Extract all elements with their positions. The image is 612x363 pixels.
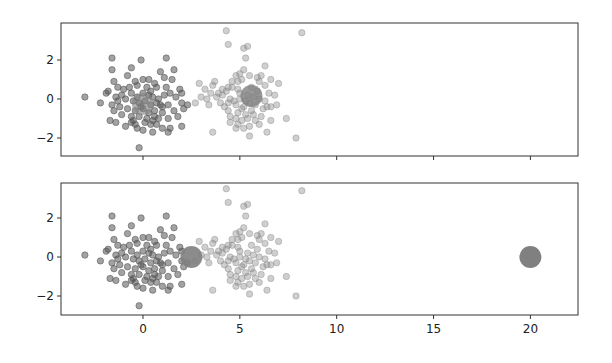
centroid-marker <box>240 85 262 107</box>
data-point <box>229 78 235 84</box>
data-point <box>233 283 239 289</box>
data-point <box>237 228 243 234</box>
data-point <box>109 225 115 231</box>
data-point <box>210 287 216 293</box>
data-point <box>130 117 136 123</box>
data-point <box>117 262 123 268</box>
centroid-marker <box>132 93 154 115</box>
data-point <box>196 238 202 244</box>
y-tick-label: 2 <box>46 53 54 67</box>
data-point <box>157 227 163 233</box>
data-point <box>268 117 274 123</box>
data-point <box>149 287 155 293</box>
data-point <box>293 293 299 299</box>
data-point <box>256 78 262 84</box>
data-point <box>122 281 128 287</box>
data-point <box>149 129 155 135</box>
data-point <box>169 234 175 240</box>
data-point <box>283 273 289 279</box>
data-point <box>169 76 175 82</box>
data-point <box>163 84 169 90</box>
data-point <box>227 277 233 283</box>
data-point <box>171 67 177 73</box>
data-point <box>262 221 268 227</box>
data-point <box>175 271 181 277</box>
data-point <box>221 104 227 110</box>
data-point <box>153 84 159 90</box>
scatter-figure: −202 −20205101520 <box>0 0 612 363</box>
data-point <box>229 236 235 242</box>
data-point <box>163 55 169 61</box>
data-point <box>206 260 212 266</box>
data-point <box>118 269 124 275</box>
axes-frame <box>61 183 578 315</box>
data-point <box>246 72 252 78</box>
data-point <box>138 57 144 63</box>
data-point <box>130 275 136 281</box>
data-point <box>122 123 128 129</box>
data-point <box>173 252 179 258</box>
data-point <box>208 248 214 254</box>
data-point <box>244 273 250 279</box>
data-point <box>268 275 274 281</box>
data-point <box>142 256 148 262</box>
data-point <box>223 28 229 34</box>
x-tick-label: 15 <box>426 322 441 336</box>
data-point <box>227 119 233 125</box>
data-point <box>202 86 208 92</box>
data-point <box>171 225 177 231</box>
data-point <box>161 74 167 80</box>
data-point <box>153 242 159 248</box>
data-point <box>213 252 219 258</box>
data-point <box>122 254 128 260</box>
data-point <box>241 283 247 289</box>
data-point <box>138 215 144 221</box>
data-point <box>196 80 202 86</box>
x-tick-label: 0 <box>139 322 147 336</box>
y-tick-label: 0 <box>46 250 54 264</box>
data-point <box>192 100 198 106</box>
data-point <box>175 113 181 119</box>
data-point <box>283 115 289 121</box>
data-point <box>103 90 109 96</box>
top-scatter-panel: −202 <box>36 23 578 160</box>
data-point <box>124 264 130 270</box>
data-point <box>117 104 123 110</box>
data-point <box>159 267 165 273</box>
data-point <box>219 86 225 92</box>
y-tick-label: −2 <box>36 131 54 145</box>
data-point <box>124 230 130 236</box>
data-point <box>109 213 115 219</box>
data-point <box>165 129 171 135</box>
data-point <box>242 213 248 219</box>
data-point <box>210 240 216 246</box>
data-point <box>161 232 167 238</box>
data-point <box>246 291 252 297</box>
data-point <box>206 102 212 108</box>
data-point <box>165 115 171 121</box>
data-point <box>210 82 216 88</box>
data-point <box>124 72 130 78</box>
data-point <box>167 90 173 96</box>
data-point <box>148 246 154 252</box>
data-point <box>202 244 208 250</box>
data-point <box>272 250 278 256</box>
data-point <box>239 264 245 270</box>
data-point <box>136 303 142 309</box>
data-point <box>134 283 140 289</box>
data-point <box>159 109 165 115</box>
data-point <box>244 115 250 121</box>
data-point <box>122 96 128 102</box>
y-tick-label: −2 <box>36 289 54 303</box>
data-point <box>262 240 268 246</box>
data-point <box>171 266 177 272</box>
data-point <box>109 102 115 108</box>
data-point <box>134 82 140 88</box>
data-point <box>136 145 142 151</box>
data-point <box>167 248 173 254</box>
y-tick-label: 0 <box>46 92 54 106</box>
data-point <box>264 129 270 135</box>
data-point <box>165 287 171 293</box>
data-point <box>299 188 305 194</box>
data-point <box>136 271 142 277</box>
